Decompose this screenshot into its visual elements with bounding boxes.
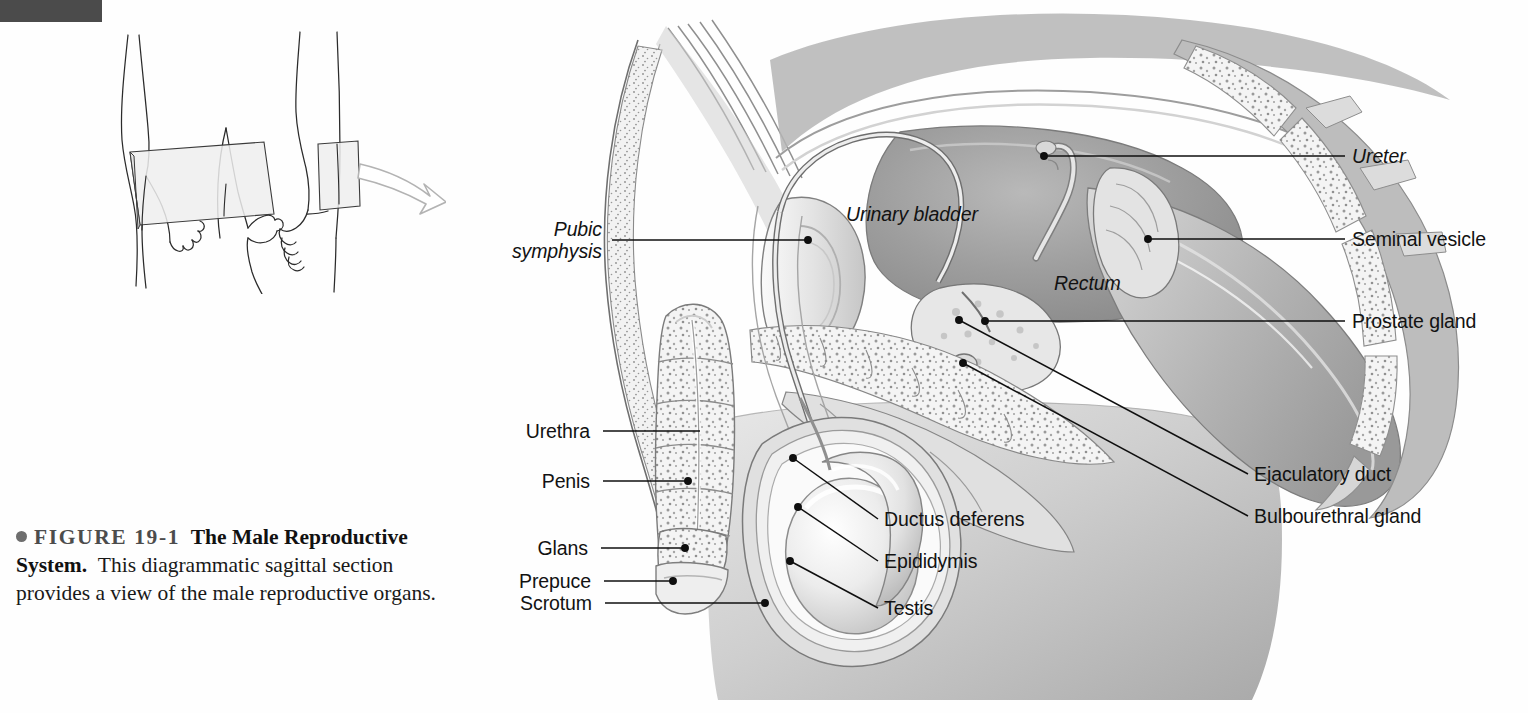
male-reproductive-sagittal-illustration [470, 0, 1528, 700]
label-ductus-deferens: Ductus deferens [884, 508, 1025, 531]
label-urethra: Urethra [0, 420, 598, 443]
label-seminal-vesicle: Seminal vesicle [1352, 228, 1486, 251]
label-ejaculatory-duct: Ejaculatory duct [1254, 463, 1391, 486]
label-urinary-bladder: Urinary bladder [846, 203, 978, 226]
page-edge-tab [0, 0, 102, 22]
label-prostate-gland: Prostate gland [1352, 310, 1476, 333]
label-pubic-symphysis-line2: symphysis [512, 240, 602, 262]
label-pubic-symphysis: Pubic symphysis [0, 218, 612, 263]
label-penis: Penis [0, 470, 598, 493]
label-pubic-symphysis-line1: Pubic [554, 218, 602, 240]
figure-number: FIGURE 19-1 [34, 525, 180, 549]
direction-arrow [358, 164, 446, 214]
figure-page: Pubic symphysis Urethra Penis Glans Prep… [0, 0, 1528, 713]
label-bulbourethral-gland: Bulbourethral gland [1254, 505, 1421, 528]
bullet-icon [16, 531, 27, 542]
label-rectum: Rectum [1054, 272, 1121, 295]
figure-caption: FIGURE 19-1 The Male Reproductive System… [16, 524, 436, 608]
label-epididymis: Epididymis [884, 550, 977, 573]
label-testis: Testis [884, 597, 933, 620]
sagittal-plane-left [130, 142, 274, 229]
label-ureter: Ureter [1352, 145, 1406, 168]
